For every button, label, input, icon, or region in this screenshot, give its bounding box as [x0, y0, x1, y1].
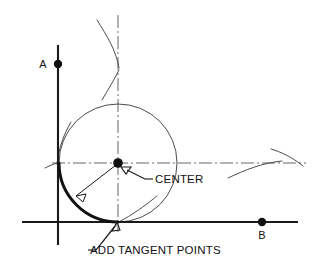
center-leader-line — [127, 170, 145, 179]
construction-arcs-group — [45, 20, 303, 250]
label-add-tangent-points: ADD TANGENT POINTS — [90, 244, 221, 256]
tangent-leader-arrow — [112, 222, 120, 231]
centerlines-group — [52, 15, 306, 232]
tangent-arc-diagram: A B CENTER ADD TANGENT POINTS — [0, 0, 313, 279]
construction-arc-right-lower — [228, 161, 282, 178]
radius-arrow-head — [76, 194, 86, 202]
construction-arc-left-lower — [45, 163, 58, 168]
radius-leader-line — [76, 165, 116, 196]
construction-arc-top-upper — [97, 20, 119, 68]
label-point-a: A — [39, 58, 47, 70]
point-a-marker — [54, 60, 62, 68]
object-lines-group — [22, 45, 298, 245]
radius-leader-group — [76, 165, 116, 202]
label-point-b: B — [258, 229, 265, 241]
diagram-canvas: A B CENTER ADD TANGENT POINTS — [0, 0, 313, 279]
point-b-marker — [258, 218, 266, 226]
label-center: CENTER — [155, 173, 203, 185]
center-point-marker — [113, 158, 123, 168]
tangent-arc — [59, 163, 118, 222]
center-leader-group — [121, 167, 153, 179]
construction-arc-top-lower — [102, 70, 119, 100]
center-leader-arrow — [121, 167, 131, 174]
